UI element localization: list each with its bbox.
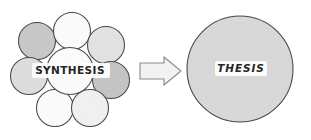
cluster-circle-top-right [88, 27, 125, 64]
diagram-canvas: SYNTHESIS THESIS [0, 0, 311, 140]
thesis-label: THESIS [217, 62, 265, 74]
cluster-circle-top-left [19, 23, 56, 60]
cluster-circle-top-center [54, 13, 91, 50]
synthesis-label: SYNTHESIS [35, 64, 105, 76]
cluster-circle-bottom-left [37, 90, 74, 127]
diagram-root: SYNTHESIS THESIS [0, 0, 311, 140]
transform-arrow [140, 57, 181, 85]
cluster-circle-bottom-right [72, 90, 109, 127]
